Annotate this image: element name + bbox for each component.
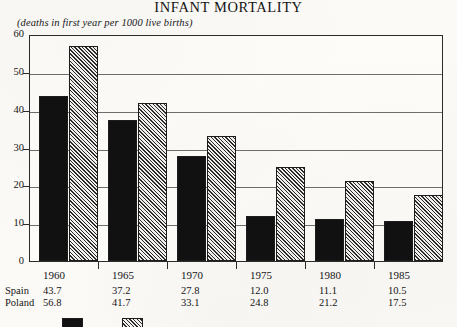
- table-year-header: 1960: [43, 269, 89, 281]
- bar-spain: [246, 216, 275, 261]
- table-cell-spain: 10.5: [388, 285, 434, 296]
- y-axis-tick-label: 60: [0, 28, 24, 39]
- bar-poland: [345, 181, 374, 261]
- bar-spain: [177, 156, 206, 261]
- bar-poland: [207, 136, 236, 261]
- bar-poland: [276, 167, 305, 261]
- x-axis-tick: [98, 262, 99, 269]
- y-axis-tick-label: 0: [0, 255, 24, 266]
- table-row-label: Poland: [5, 297, 34, 308]
- x-axis-tick: [167, 262, 168, 269]
- table-cell-poland: 17.5: [388, 297, 434, 308]
- bar-spain: [108, 120, 137, 261]
- x-axis-tick: [305, 262, 306, 269]
- table-year-header: 1985: [388, 269, 434, 281]
- table-cell-spain: 12.0: [250, 285, 296, 296]
- table-year-header: 1975: [250, 269, 296, 281]
- table-year-header: 1970: [181, 269, 227, 281]
- bar-group: [237, 36, 306, 261]
- table-cell-poland: 33.1: [181, 297, 227, 308]
- bar-poland: [414, 195, 443, 261]
- y-axis-tick-label: 40: [0, 104, 24, 115]
- bar-group: [306, 36, 375, 261]
- y-axis-tick-label: 10: [0, 217, 24, 228]
- bar-group: [375, 36, 444, 261]
- table-cell-spain: 37.2: [112, 285, 158, 296]
- table-cell-poland: 56.8: [43, 297, 89, 308]
- bar-group: [168, 36, 237, 261]
- bar-spain: [39, 96, 68, 261]
- x-axis-tick: [236, 262, 237, 269]
- legend-swatch-spain: [62, 318, 83, 327]
- chart-legend: [0, 318, 457, 327]
- legend-swatch-poland: [122, 318, 143, 327]
- chart-subtitle: (deaths in first year per 1000 live birt…: [17, 17, 193, 28]
- y-axis-tick-label: 50: [0, 66, 24, 77]
- table-cell-poland: 24.8: [250, 297, 296, 308]
- y-axis-tick-label: 20: [0, 179, 24, 190]
- y-axis-tick-label: 30: [0, 142, 24, 153]
- bar-poland: [138, 103, 167, 261]
- chart-page: INFANT MORTALITY (deaths in first year p…: [0, 0, 457, 327]
- table-year-header: 1965: [112, 269, 158, 281]
- x-axis-tick: [374, 262, 375, 269]
- bar-group: [30, 36, 99, 261]
- table-year-header: 1980: [319, 269, 365, 281]
- bar-group: [99, 36, 168, 261]
- bar-poland: [69, 46, 98, 261]
- table-cell-spain: 27.8: [181, 285, 227, 296]
- table-cell-spain: 43.7: [43, 285, 89, 296]
- table-cell-poland: 41.7: [112, 297, 158, 308]
- bar-spain: [315, 219, 344, 261]
- plot-area: [29, 35, 443, 262]
- chart-title: INFANT MORTALITY: [0, 0, 457, 16]
- bar-spain: [384, 221, 413, 261]
- table-row-label: Spain: [5, 285, 29, 296]
- table-cell-spain: 11.1: [319, 285, 365, 296]
- table-cell-poland: 21.2: [319, 297, 365, 308]
